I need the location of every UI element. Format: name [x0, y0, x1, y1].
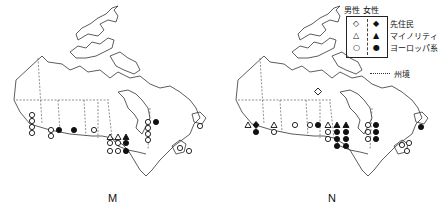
- legend-label-european: ヨーロッパ系: [390, 42, 438, 53]
- triangle-filled-icon: ▲: [373, 32, 379, 40]
- legend-header-female: 女性: [363, 6, 379, 15]
- legend-header-male: 男性: [344, 6, 360, 15]
- triangle-outline-icon: △: [353, 32, 359, 40]
- diamond-outline-icon: ◇: [353, 20, 359, 28]
- legend-divider: [367, 19, 368, 55]
- map-panel-m: M: [0, 0, 222, 219]
- legend-label-minority: マイノリティ: [390, 30, 438, 41]
- map-legend: 男性 女性 ◇ ◆ △ ▲ ○ ● 先住民 マイノリティ ヨーロッパ系 州境: [344, 4, 444, 84]
- legend-symbol-box: ◇ ◆ △ ▲ ○ ●: [346, 16, 388, 58]
- canada-outline-m: [0, 0, 222, 219]
- panel-caption-n: N: [328, 192, 336, 204]
- legend-label-border: 州境: [394, 68, 410, 79]
- circle-outline-icon: ○: [353, 44, 360, 52]
- panel-caption-m: M: [108, 192, 117, 204]
- circle-filled-icon: ●: [373, 44, 380, 52]
- provincial-border-line-icon: [370, 73, 390, 74]
- diamond-filled-icon: ◆: [373, 20, 379, 28]
- legend-header: 男性 女性: [344, 4, 379, 15]
- legend-label-indigenous: 先住民: [390, 18, 414, 29]
